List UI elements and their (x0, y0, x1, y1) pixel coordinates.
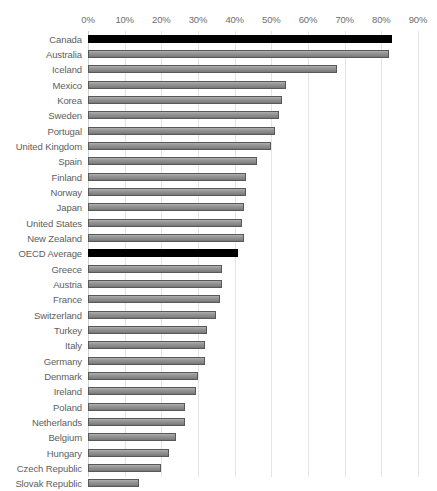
bar-row: Finland (0, 169, 437, 184)
category-label: Ireland (0, 386, 82, 397)
bar (88, 418, 185, 426)
category-label: OECD Average (0, 248, 82, 259)
bar (88, 249, 238, 257)
x-axis-tick-9: 90% (409, 14, 427, 25)
bar-track (88, 403, 418, 411)
category-label: Denmark (0, 370, 82, 381)
bar-track (88, 157, 418, 165)
x-axis-tick-1: 10% (115, 14, 133, 25)
bar (88, 188, 246, 196)
bar-track (88, 127, 418, 135)
category-label: Australia (0, 48, 82, 59)
bar (88, 403, 185, 411)
x-axis-tick-8: 80% (372, 14, 390, 25)
bar-row: Belgium (0, 430, 437, 445)
bar-row: Australia (0, 46, 437, 61)
bar-track (88, 81, 418, 89)
bar (88, 65, 337, 73)
bar-row: Canada (0, 31, 437, 46)
bar-track (88, 433, 418, 441)
category-label: Germany (0, 355, 82, 366)
category-label: Netherlands (0, 416, 82, 427)
bar-track (88, 249, 418, 257)
bar-row: Ireland (0, 384, 437, 399)
bar (88, 433, 176, 441)
bar-row: Mexico (0, 77, 437, 92)
bar (88, 35, 392, 43)
bar-track (88, 111, 418, 119)
category-label: Slovak Republic (0, 478, 82, 489)
bar-row: Czech Republic (0, 460, 437, 475)
bar-track (88, 35, 418, 43)
bar-track (88, 50, 418, 58)
bar (88, 326, 207, 334)
bar-row: Poland (0, 399, 437, 414)
x-axis-tick-5: 50% (262, 14, 280, 25)
bar-track (88, 479, 418, 487)
bar-row: Netherlands (0, 414, 437, 429)
bar-rows: CanadaAustraliaIcelandMexicoKoreaSwedenP… (0, 31, 437, 491)
bar-row: Greece (0, 261, 437, 276)
bar (88, 142, 271, 150)
category-label: Norway (0, 186, 82, 197)
category-label: Italy (0, 340, 82, 351)
category-label: Greece (0, 263, 82, 274)
bar-row: Hungary (0, 445, 437, 460)
bar-row: Switzerland (0, 307, 437, 322)
bar-track (88, 65, 418, 73)
bar-track (88, 234, 418, 242)
category-label: Mexico (0, 79, 82, 90)
bar-track (88, 96, 418, 104)
bar (88, 157, 257, 165)
bar (88, 449, 169, 457)
bar-track (88, 295, 418, 303)
bar (88, 387, 196, 395)
bar-track (88, 173, 418, 181)
bar-row: New Zealand (0, 230, 437, 245)
x-axis-tick-7: 70% (335, 14, 353, 25)
bar (88, 479, 139, 487)
bar (88, 464, 161, 472)
bar-row: Spain (0, 154, 437, 169)
bar-row: Slovak Republic (0, 476, 437, 491)
category-label: Hungary (0, 447, 82, 458)
bar-track (88, 311, 418, 319)
bar (88, 234, 244, 242)
category-label: Turkey (0, 324, 82, 335)
bar-track (88, 142, 418, 150)
category-label: Canada (0, 33, 82, 44)
bar-row: Denmark (0, 368, 437, 383)
category-label: Finland (0, 171, 82, 182)
category-label: United States (0, 217, 82, 228)
bar-track (88, 326, 418, 334)
bar (88, 219, 242, 227)
bar-row: Japan (0, 200, 437, 215)
category-label: Poland (0, 401, 82, 412)
bar (88, 265, 222, 273)
bar-row: Korea (0, 92, 437, 107)
x-axis-tick-0: 0% (81, 14, 94, 25)
bar (88, 311, 216, 319)
bar (88, 357, 205, 365)
bar (88, 341, 205, 349)
bar-track (88, 188, 418, 196)
bar-track (88, 372, 418, 380)
bar-row: OECD Average (0, 246, 437, 261)
x-axis-tick-3: 30% (189, 14, 207, 25)
category-label: New Zealand (0, 232, 82, 243)
category-label: Czech Republic (0, 462, 82, 473)
category-label: France (0, 294, 82, 305)
category-label: Spain (0, 156, 82, 167)
bar-track (88, 203, 418, 211)
bar-row: Austria (0, 276, 437, 291)
category-label: Iceland (0, 64, 82, 75)
category-label: Portugal (0, 125, 82, 136)
category-label: Austria (0, 278, 82, 289)
bar-row: Norway (0, 184, 437, 199)
bar (88, 111, 279, 119)
bar (88, 203, 244, 211)
category-label: Belgium (0, 432, 82, 443)
bar (88, 50, 389, 58)
bar (88, 295, 220, 303)
